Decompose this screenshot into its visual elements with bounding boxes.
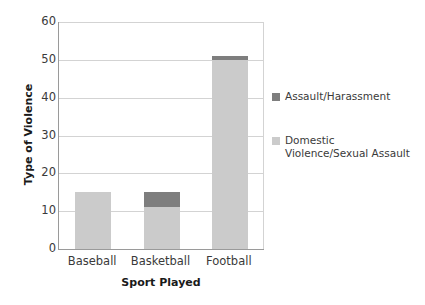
bar-group[interactable]: [75, 22, 111, 249]
bar-segment[interactable]: [144, 192, 180, 207]
x-axis-tick-labels: BaseballBasketballFootball: [58, 254, 264, 272]
y-tick-label: 20: [28, 168, 56, 180]
x-tick-label: Football: [206, 254, 252, 268]
x-tick-label: Basketball: [131, 254, 191, 268]
y-tick-label: 0: [28, 243, 56, 255]
y-axis-tick-labels: 0102030405060: [28, 22, 56, 249]
y-tick-label: 40: [28, 92, 56, 104]
bar-group[interactable]: [144, 22, 180, 249]
y-tick-label: 60: [28, 16, 56, 28]
y-tick-label: 50: [28, 54, 56, 66]
legend-label: Assault/Harassment: [285, 90, 390, 103]
legend-item[interactable]: Assault/Harassment: [272, 90, 390, 103]
legend-item[interactable]: Domestic Violence/Sexual Assault: [272, 134, 410, 160]
legend-swatch-icon: [272, 93, 280, 101]
bar-chart: Type of Violence 0102030405060 BaseballB…: [0, 0, 425, 305]
plot-area: [58, 22, 264, 250]
x-axis-title: Sport Played: [58, 276, 264, 289]
bars-layer: [59, 22, 264, 249]
y-tick-label: 10: [28, 205, 56, 217]
bar-group[interactable]: [212, 22, 248, 249]
bar-segment[interactable]: [144, 207, 180, 249]
x-tick-label: Baseball: [68, 254, 117, 268]
legend-swatch-icon: [272, 137, 280, 145]
y-tick-label: 30: [28, 130, 56, 142]
bar-segment[interactable]: [212, 60, 248, 249]
legend-label: Domestic Violence/Sexual Assault: [285, 134, 410, 160]
bar-segment[interactable]: [75, 192, 111, 249]
bar-segment[interactable]: [212, 56, 248, 60]
